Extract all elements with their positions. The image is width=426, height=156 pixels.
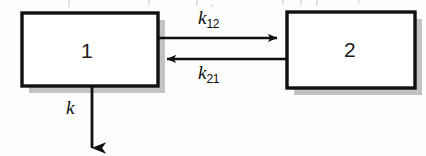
compartment-1-label: 1 (81, 40, 93, 61)
rate-constant-k12-label: k12 (198, 8, 219, 27)
compartment-2-label: 2 (344, 39, 356, 60)
two-compartment-model-diagram: 1 2 k12 k21 k (0, 0, 426, 156)
k12-subscript: 12 (206, 17, 219, 31)
rate-constant-k-elimination-label: k (66, 98, 74, 117)
k21-subscript: 21 (206, 72, 219, 86)
k-symbol: k (66, 97, 74, 118)
rate-constant-k21-label: k21 (198, 63, 219, 82)
